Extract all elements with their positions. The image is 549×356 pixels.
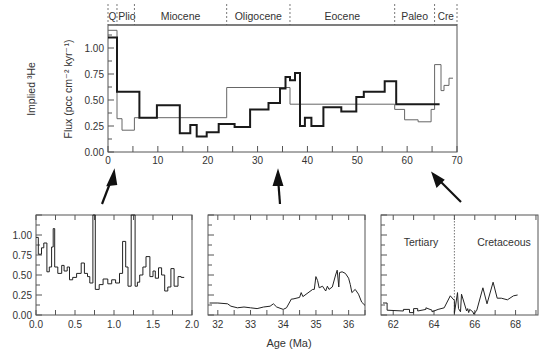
arrow-icon-right [433, 174, 461, 202]
inset-chart-32-36ma: 3233343536 [208, 215, 365, 330]
y-axis-label-line1: Implied ³He [25, 62, 37, 116]
epoch-label-eocene: Eocene [325, 10, 361, 22]
inset-y-tick-label: 1.00 [13, 230, 33, 241]
main-y-axis: 0.000.250.500.751.00 [85, 35, 114, 158]
inset-series-line [210, 270, 365, 309]
y-tick-label: 0.25 [85, 121, 105, 132]
epoch-label-q: Q [109, 11, 117, 22]
inset-x-tick-label: 33 [245, 319, 257, 330]
inset-series-line [36, 215, 184, 291]
inset-x-tick-label: 34 [278, 319, 290, 330]
inset-x-tick-label: 0.5 [68, 319, 82, 330]
main-series [108, 30, 453, 136]
x-tick-label: 0 [105, 155, 111, 166]
inset-x-tick-label: 1.5 [146, 319, 160, 330]
annotation-tertiary: Tertiary [404, 236, 439, 248]
inset-x-tick-label: 36 [343, 319, 355, 330]
arrow-icon-middle [274, 172, 282, 204]
inset-plot-frame [381, 215, 538, 315]
inset-x-tick-label: 66 [469, 319, 481, 330]
inset-x-tick-label: 68 [510, 319, 522, 330]
epoch-label-miocene: Miocene [161, 10, 201, 22]
epoch-label-paleo: Paleo [401, 10, 428, 22]
inset-x-tick-label: 64 [428, 319, 440, 330]
x-tick-label: 60 [402, 155, 414, 166]
inset-y-tick-label: 0.25 [13, 290, 33, 301]
epoch-label-oligocene: Oligocene [235, 10, 282, 22]
epoch-header: QPlioMioceneOligoceneEocenePaleoCre [108, 4, 457, 25]
x-tick-label: 30 [252, 155, 264, 166]
x-tick-label: 10 [152, 155, 164, 166]
x-tick-label: 40 [302, 155, 314, 166]
inset-plot-frame [208, 215, 365, 315]
inset-y-tick-label: 0.50 [13, 270, 33, 281]
figure: QPlioMioceneOligoceneEocenePaleoCre 0.00… [0, 0, 549, 356]
main-chart: QPlioMioceneOligoceneEocenePaleoCre 0.00… [25, 4, 463, 166]
inset-y-tick-label: 0.75 [13, 250, 33, 261]
series-thin-line [108, 30, 453, 130]
inset-chart-0-2ma: 0.000.250.500.751.000.00.51.01.52.0 [13, 215, 200, 330]
inset-x-tick-label: 2.0 [185, 319, 199, 330]
inset-x-tick-label: 35 [310, 319, 322, 330]
arrows [102, 172, 461, 204]
y-axis-label-line2: Flux (pcc cm⁻² kyr⁻¹) [62, 40, 74, 139]
y-tick-label: 1.00 [85, 43, 105, 54]
annotation-cretaceous: Cretaceous [477, 236, 531, 248]
inset-chart-62-68ma: 62646668 [381, 215, 538, 330]
y-tick-label: 0.75 [85, 69, 105, 80]
inset-x-tick-label: 0.0 [29, 319, 43, 330]
arrow-icon-left [102, 172, 116, 204]
x-tick-label: 20 [202, 155, 214, 166]
y-tick-label: 0.00 [85, 147, 105, 158]
epoch-label-cre: Cre [438, 11, 455, 22]
y-tick-label: 0.50 [85, 95, 105, 106]
x-tick-label: 50 [352, 155, 364, 166]
inset-plot-frame [36, 215, 192, 315]
inset-x-tick-label: 32 [212, 319, 224, 330]
x-axis-label-age: Age (Ma) [266, 337, 311, 349]
inset-x-tick-label: 62 [388, 319, 400, 330]
main-x-axis: 010203040506070 [105, 146, 463, 166]
inset-series-line [383, 282, 518, 314]
x-tick-label: 70 [451, 155, 463, 166]
inset-x-tick-label: 1.0 [107, 319, 121, 330]
epoch-label-plio: Plio [118, 10, 136, 22]
